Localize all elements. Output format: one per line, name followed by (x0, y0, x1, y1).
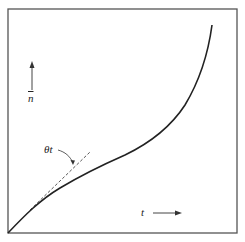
x-axis-label: t (141, 207, 144, 218)
y-axis-label: n (28, 93, 34, 104)
x-axis-right-arrow-icon (153, 211, 182, 216)
theta-t-pointer-arrow-icon (58, 150, 75, 165)
diagram-figure (0, 0, 245, 242)
tangent-label: θt (44, 144, 52, 155)
tangent-line-theta-t (30, 152, 90, 210)
y-axis-up-arrow-icon (30, 61, 35, 90)
